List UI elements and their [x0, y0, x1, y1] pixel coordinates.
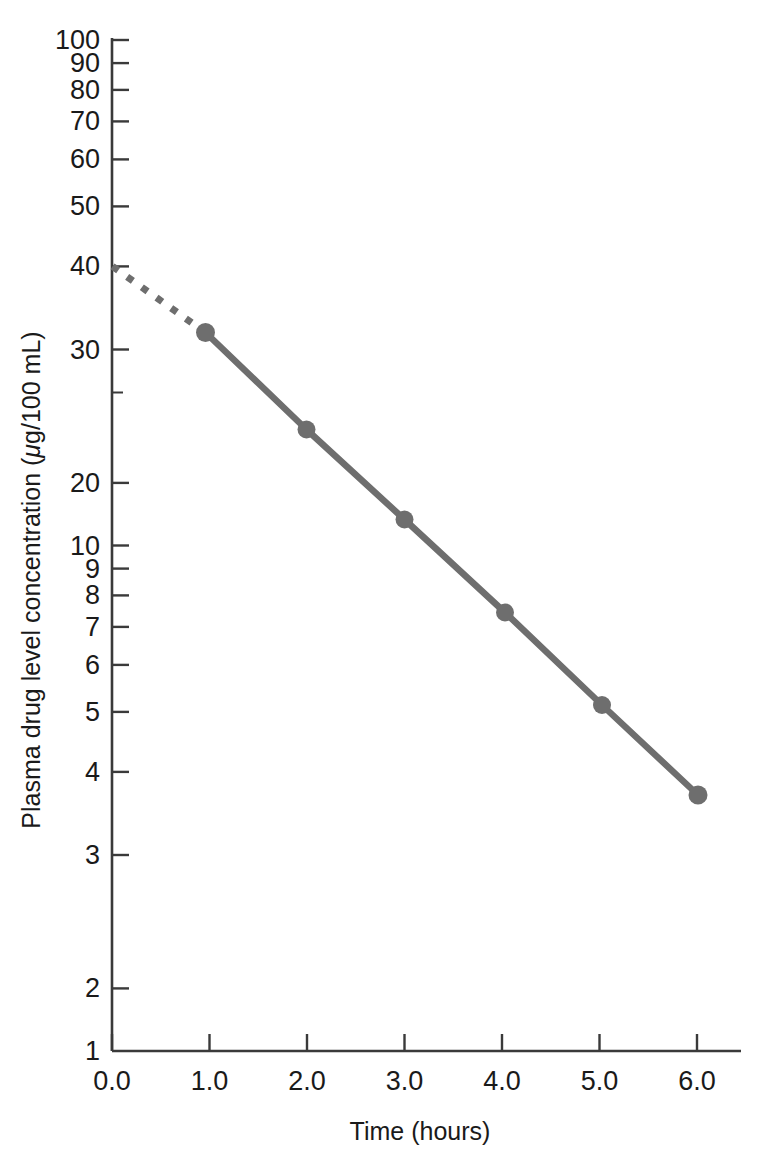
x-tick-label-6: 6.0: [678, 1066, 716, 1096]
x-tick-label-5: 5.0: [581, 1066, 619, 1096]
y-tick-label-50: 50: [70, 191, 100, 221]
y-tick-label-4: 4: [85, 757, 100, 787]
x-tick-label-4: 4.0: [483, 1066, 521, 1096]
x-tick-label-0: 0.0: [93, 1066, 131, 1096]
y-axis-title-after: g/100 mL): [17, 331, 45, 444]
y-tick-label-90: 90: [70, 48, 100, 78]
y-axis-title: Plasma drug level concentration (μg/100 …: [17, 331, 45, 828]
circle-marker-icon-2h: [298, 421, 316, 439]
y-tick-label-1: 1: [85, 1036, 100, 1066]
x-tick-label-1: 1.0: [191, 1066, 229, 1096]
x-tick-label-2: 2.0: [288, 1066, 326, 1096]
axes-group: [112, 38, 741, 1051]
y-tick-label-7: 7: [85, 612, 100, 642]
y-axis-title-mu: μ: [17, 444, 45, 459]
y-tick-label-80: 80: [70, 75, 100, 105]
circle-marker-icon-1h: [196, 323, 215, 342]
circle-marker-icon-6h: [689, 786, 708, 805]
semilog-plot-figure: 100 90 80 70 60 50 40 30 20 10 9 8 7 6 5…: [0, 0, 772, 1168]
y-tick-label-9: 9: [85, 554, 100, 584]
y-tick-label-40: 40: [70, 251, 100, 281]
circle-marker-icon-3h: [396, 511, 414, 529]
y-tick-label-8: 8: [85, 580, 100, 610]
extrapolation-dotted-line: [113, 266, 206, 332]
y-tick-label-3: 3: [85, 840, 100, 870]
y-axis-title-before: Plasma drug level concentration (: [17, 457, 45, 829]
x-axis-tick-labels: 0.0 1.0 2.0 3.0 4.0 5.0 6.0: [93, 1066, 716, 1096]
y-tick-label-60: 60: [70, 144, 100, 174]
plot-canvas: 100 90 80 70 60 50 40 30 20 10 9 8 7 6 5…: [0, 0, 772, 1168]
y-tick-label-30: 30: [70, 335, 100, 365]
y-tick-label-70: 70: [70, 106, 100, 136]
x-axis-title: Time (hours): [350, 1117, 491, 1145]
y-axis-tick-labels: 100 90 80 70 60 50 40 30 20 10 9 8 7 6 5…: [55, 25, 100, 1066]
y-tick-label-5: 5: [85, 697, 100, 727]
x-tick-label-3: 3.0: [386, 1066, 424, 1096]
y-axis-ticks: [112, 40, 129, 988]
x-axis-ticks: [112, 1034, 697, 1051]
y-tick-label-20: 20: [70, 468, 100, 498]
y-tick-label-2: 2: [85, 973, 100, 1003]
y-tick-label-6: 6: [85, 650, 100, 680]
circle-marker-icon-5h: [593, 696, 611, 714]
data-line-series-0: [206, 333, 699, 796]
circle-marker-icon-4h: [496, 604, 514, 622]
